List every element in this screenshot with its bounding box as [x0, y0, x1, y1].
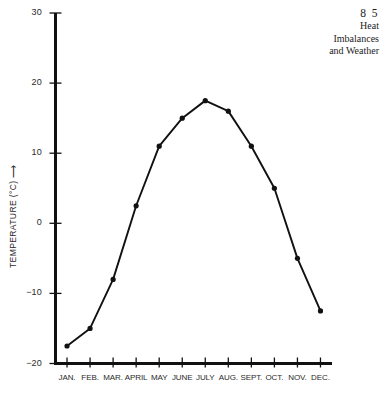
data-point-marker: [157, 144, 162, 149]
data-point-marker: [226, 109, 231, 114]
x-axis-tick-label: JAN.: [59, 373, 76, 382]
x-axis-tick-label: SEPT.: [240, 373, 262, 382]
y-axis-tick-label: 20: [12, 77, 42, 87]
data-point-marker: [87, 326, 92, 331]
data-point-marker: [318, 308, 323, 313]
x-axis-tick-label: FEB.: [81, 373, 98, 382]
x-axis-tick-label: NOV.: [288, 373, 306, 382]
x-axis-tick-label: JULY: [196, 373, 215, 382]
chart-axes: [54, 13, 332, 364]
y-axis-arrow-icon: ⟶: [8, 166, 18, 178]
temperature-series-line: [67, 101, 320, 346]
data-point-marker: [111, 277, 116, 282]
data-point-marker: [272, 186, 277, 191]
data-point-marker: [295, 256, 300, 261]
x-axis-tick-label: JUNE: [172, 373, 193, 382]
y-axis-title-text: TEMPERATURE (°C): [8, 180, 18, 268]
y-axis-tick-label: −20: [12, 358, 42, 368]
x-axis-tick-label: OCT.: [265, 373, 283, 382]
data-point-marker: [64, 343, 69, 348]
y-axis-tick-label: 30: [12, 7, 42, 17]
x-axis-tick-label: AUG.: [219, 373, 238, 382]
y-axis-tick-label: −10: [12, 287, 42, 297]
data-point-marker: [203, 98, 208, 103]
temperature-line-chart: 3020100−10−20 JAN.FEB.MAR.APRILMAYJUNEJU…: [0, 0, 385, 401]
data-point-marker: [249, 144, 254, 149]
temperature-series-markers: [64, 98, 323, 349]
x-axis-tick-label: DEC.: [311, 373, 330, 382]
x-axis-tick-label: APRIL: [125, 373, 148, 382]
chart-canvas: [0, 0, 385, 401]
data-point-marker: [180, 116, 185, 121]
x-axis-tick-label: MAR.: [103, 373, 123, 382]
data-point-marker: [134, 203, 139, 208]
x-axis-tick-label: MAY: [151, 373, 167, 382]
y-axis-title: TEMPERATURE (°C) ⟶: [8, 138, 18, 268]
